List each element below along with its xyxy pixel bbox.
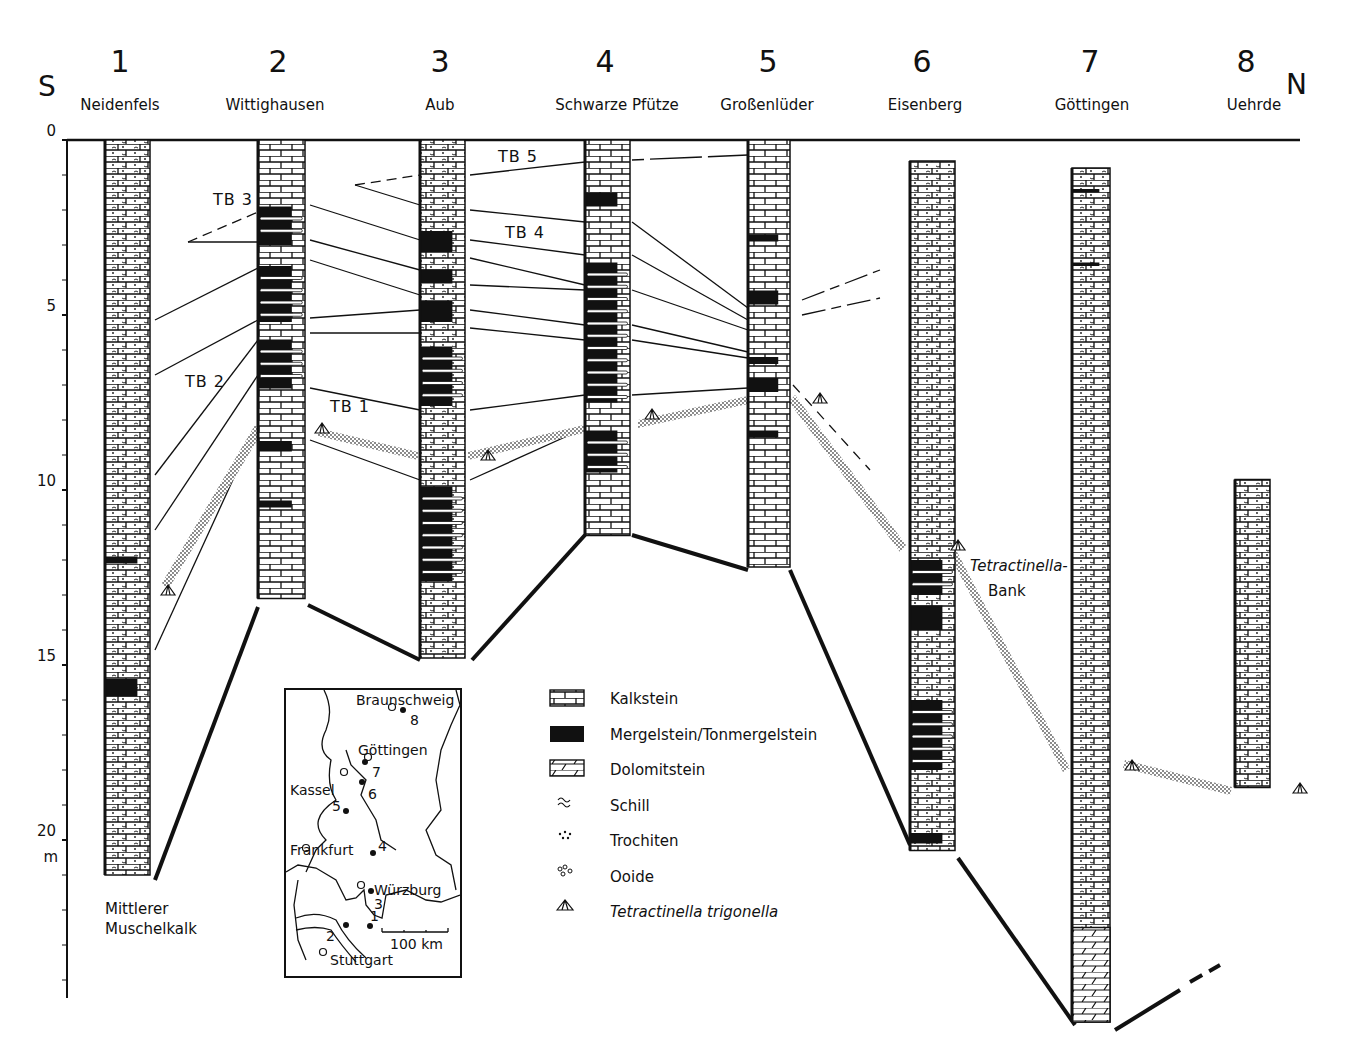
- depth-tick-label: 10: [26, 472, 56, 490]
- limestone-stringer: [912, 711, 953, 714]
- tetractinella-marker-icon: [813, 393, 827, 403]
- marl-pattern-icon: [550, 726, 584, 742]
- site-marker-2: [343, 922, 349, 928]
- limestone-stringer: [912, 583, 953, 586]
- depth-tick-label: 20: [26, 822, 56, 840]
- limestone-stringer: [587, 334, 628, 337]
- legend-label-ooid-symbol: Ooide: [610, 868, 654, 886]
- legend-label-dolomite-pattern: Dolomitstein: [610, 761, 705, 779]
- section-column-1: [105, 140, 150, 875]
- marl-band: [258, 501, 292, 508]
- map-site-label-6: 6: [368, 786, 377, 802]
- map-site-label-4: 4: [378, 838, 387, 854]
- marl-band: [585, 263, 617, 403]
- legend: KalksteinMergelstein/TonmergelsteinDolom…: [548, 686, 848, 926]
- section-number: 5: [738, 44, 798, 79]
- section-column-8: [1235, 480, 1270, 788]
- section-column-7: [1072, 168, 1110, 1022]
- section-location-name: Eisenberg: [845, 96, 1005, 114]
- section-location-name: Wittighausen: [195, 96, 355, 114]
- limestone-stringer: [587, 347, 628, 350]
- limestone-stringer: [912, 723, 953, 726]
- marl-band: [1072, 189, 1099, 193]
- limestone-stringer: [422, 382, 463, 385]
- section-number: 1: [90, 44, 150, 79]
- limestone-body: [105, 140, 150, 875]
- section-location-name: Neidenfels: [40, 96, 200, 114]
- bed-label-tb1: TB 1: [330, 397, 370, 416]
- section-number: 4: [575, 44, 635, 79]
- marl-band: [910, 560, 942, 595]
- limestone-stringer: [587, 285, 628, 288]
- section-number: 8: [1216, 44, 1276, 79]
- limestone-stringer: [587, 322, 628, 325]
- limestone-stringer: [587, 310, 628, 313]
- marl-band: [748, 291, 778, 305]
- limestone-stringer: [422, 571, 463, 574]
- site-marker-5: [343, 808, 349, 814]
- marl-band: [105, 679, 137, 697]
- section-column-2: [258, 140, 305, 599]
- map-border-left: [294, 880, 306, 960]
- city-marker-kassel: [341, 769, 348, 776]
- limestone-stringer: [260, 289, 302, 292]
- map-site-label-2: 2: [326, 928, 335, 944]
- limestone-stringer: [422, 558, 463, 561]
- legend-label-shell-hash-symbol: Schill: [610, 797, 650, 815]
- map-site-label-7: 7: [372, 764, 381, 780]
- limestone-stringer: [260, 350, 302, 353]
- section-column-3: [420, 140, 465, 658]
- tetractinella-marker-icon: [645, 409, 659, 419]
- marl-band: [258, 207, 292, 246]
- marl-band: [1072, 263, 1099, 267]
- limestone-stringer: [422, 394, 463, 397]
- limestone-pattern-icon: [550, 690, 584, 706]
- section-location-name: Schwarze Pfütze: [537, 96, 697, 114]
- scale-bar: [382, 928, 448, 932]
- limestone-stringer: [260, 301, 302, 304]
- site-marker-4: [370, 850, 376, 856]
- limestone-stringer: [587, 466, 628, 469]
- bed-label-tb4: TB 4: [505, 223, 545, 242]
- inset-map-lines: [286, 690, 460, 976]
- section-location-name: Göttingen: [1012, 96, 1172, 114]
- limestone-stringer: [260, 375, 302, 378]
- limestone-body: [748, 140, 790, 567]
- limestone-stringer: [422, 522, 463, 525]
- shell-hash-icon: [558, 798, 570, 807]
- depth-tick-label: 15: [26, 647, 56, 665]
- marl-band: [258, 441, 292, 452]
- city-marker-stuttgart: [320, 949, 327, 956]
- site-marker-6: [359, 779, 365, 785]
- marl-band: [420, 301, 452, 322]
- section-number: 2: [248, 44, 308, 79]
- legend-label-brachiopod-symbol: Tetractinella trigonella: [610, 903, 778, 921]
- map-site-label-5: 5: [332, 798, 341, 814]
- section-location-name: Aub: [360, 96, 520, 114]
- section-number: 7: [1060, 44, 1120, 79]
- section-location-name: Uehrde: [1174, 96, 1334, 114]
- marl-band: [748, 431, 778, 438]
- limestone-stringer: [260, 277, 302, 280]
- marl-band: [910, 606, 942, 631]
- limestone-stringer: [587, 298, 628, 301]
- limestone-stringer: [422, 534, 463, 537]
- map-label-braunschweig: Braunschweig: [356, 692, 454, 708]
- section-location-name: Großenlüder: [687, 96, 847, 114]
- limestone-stringer: [422, 497, 463, 500]
- marl-band: [105, 557, 137, 564]
- limestone-stringer: [260, 229, 302, 232]
- bed-label-tb5: TB 5: [498, 147, 538, 166]
- bed-label-tb3: TB 3: [213, 190, 253, 209]
- limestone-stringer: [587, 453, 628, 456]
- limestone-stringer: [587, 371, 628, 374]
- limestone-stringer: [912, 760, 953, 763]
- section-number: 6: [892, 44, 952, 79]
- limestone-stringer: [422, 509, 463, 512]
- map-label-frankfurt: Frankfurt: [290, 842, 353, 858]
- tetractinella-marker-icon: [161, 585, 175, 595]
- dolomite-pattern-icon: [550, 760, 584, 776]
- base-unit-label-line1: Mittlerer: [105, 900, 169, 918]
- limestone-stringer: [422, 546, 463, 549]
- map-site-label-8: 8: [410, 712, 419, 728]
